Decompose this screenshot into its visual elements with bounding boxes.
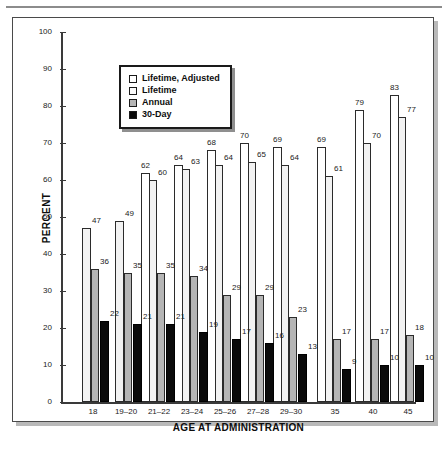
bar-value-label: 10 [390, 354, 399, 362]
bar-value-label: 18 [415, 324, 424, 332]
bar-value-label: 77 [407, 106, 416, 114]
bar-value-label: 29 [265, 284, 274, 292]
x-axis-tick-labels: 1819–2021–2223–2425–2627–2829–30354045 [63, 408, 416, 422]
bar [406, 335, 414, 402]
bar-value-label: 68 [207, 139, 216, 147]
bar-value-label: 13 [308, 343, 317, 351]
y-tick-label: 90 [43, 65, 52, 73]
y-tick-label: 80 [43, 102, 52, 110]
bar-value-label: 16 [275, 332, 284, 340]
bar-value-label: 22 [110, 310, 119, 318]
bar-group: 69642313 [269, 32, 313, 402]
x-tick-label: 45 [404, 408, 413, 416]
bar [124, 273, 132, 403]
legend-swatch-icon [129, 87, 137, 95]
x-tick-label: 27–28 [247, 408, 269, 416]
legend-item-label: Lifetime, Adjusted [142, 74, 220, 84]
chart-frame: 0102030405060708090100 47362249352162603… [12, 17, 434, 422]
bar-value-label: 36 [100, 258, 109, 266]
bar-value-label: 69 [273, 136, 282, 144]
y-tick-label: 40 [43, 250, 52, 258]
bar-value-label: 9 [352, 358, 356, 366]
legend-item-label: Lifetime [142, 86, 177, 96]
bar [342, 369, 351, 402]
y-tick-mark [60, 402, 66, 403]
bar-value-label: 17 [380, 328, 389, 336]
x-axis-line [61, 402, 416, 404]
bar [174, 165, 183, 402]
bar [190, 276, 198, 402]
bar-value-label: 83 [390, 84, 399, 92]
plot-region: 0102030405060708090100 47362249352162603… [61, 32, 416, 404]
y-tick-label: 20 [43, 324, 52, 332]
bar [223, 295, 231, 402]
bar [256, 295, 264, 402]
y-tick-label: 0 [48, 398, 52, 406]
y-tick-label: 30 [43, 287, 52, 295]
bar [166, 324, 175, 402]
bar [265, 343, 274, 402]
bar-value-label: 35 [166, 262, 175, 270]
bar-value-label: 70 [372, 132, 381, 140]
y-tick-label: 70 [43, 139, 52, 147]
legend-item: 30-Day [129, 110, 220, 120]
chart-legend: Lifetime, AdjustedLifetimeAnnual30-Day [119, 65, 232, 129]
bar-value-label: 60 [158, 169, 167, 177]
bar-value-label: 21 [143, 313, 152, 321]
bar [207, 150, 216, 402]
bar [133, 324, 142, 402]
bar [199, 332, 208, 402]
y-tick-label: 100 [39, 28, 52, 36]
x-tick-label: 21–22 [148, 408, 170, 416]
bar-value-label: 64 [290, 154, 299, 162]
bar [157, 273, 165, 403]
bar [240, 143, 249, 402]
bar [333, 339, 341, 402]
bar [100, 321, 109, 402]
legend-swatch-icon [129, 75, 137, 83]
bar [273, 147, 282, 402]
x-axis-title: AGE AT ADMINISTRATION [61, 422, 416, 433]
bar [380, 365, 389, 402]
bar-value-label: 61 [334, 165, 343, 173]
bar-value-label: 17 [342, 328, 351, 336]
x-tick-label: 35 [331, 408, 340, 416]
bar [82, 228, 91, 402]
bar [298, 354, 307, 402]
x-tick-label: 25–26 [214, 408, 236, 416]
top-divider-rule [6, 6, 442, 8]
bar-value-label: 17 [242, 328, 251, 336]
bar [289, 317, 297, 402]
y-tick-label: 10 [43, 361, 52, 369]
y-tick-label: 60 [43, 176, 52, 184]
bar [317, 147, 326, 402]
bar-value-label: 64 [224, 154, 233, 162]
bar [371, 339, 379, 402]
bar-value-label: 65 [257, 151, 266, 159]
bar-value-label: 63 [191, 158, 200, 166]
bar-groups: 4736224935216260352164633419686429177065… [63, 32, 416, 402]
x-tick-label: 18 [89, 408, 98, 416]
bar-value-label: 49 [125, 210, 134, 218]
y-axis-title: PERCENT [41, 193, 52, 244]
bar-value-label: 19 [209, 321, 218, 329]
legend-swatch-icon [129, 111, 137, 119]
legend-swatch-icon [129, 99, 137, 107]
plot-area: 0102030405060708090100 47362249352162603… [61, 32, 416, 404]
bar-value-label: 34 [199, 265, 208, 273]
x-tick-label: 40 [369, 408, 378, 416]
bar [415, 365, 424, 402]
legend-item: Annual [129, 98, 220, 108]
x-tick-label: 23–24 [181, 408, 203, 416]
bar-value-label: 70 [240, 132, 249, 140]
legend-item: Lifetime [129, 86, 220, 96]
bar [141, 173, 150, 402]
x-tick-label: 19–20 [115, 408, 137, 416]
bar-value-label: 29 [232, 284, 241, 292]
x-tick-label: 29–30 [280, 408, 302, 416]
bar-value-label: 62 [141, 162, 150, 170]
legend-item-label: 30-Day [142, 110, 172, 120]
bar-value-label: 69 [317, 136, 326, 144]
legend-item-label: Annual [142, 98, 173, 108]
bar-value-label: 47 [92, 217, 101, 225]
